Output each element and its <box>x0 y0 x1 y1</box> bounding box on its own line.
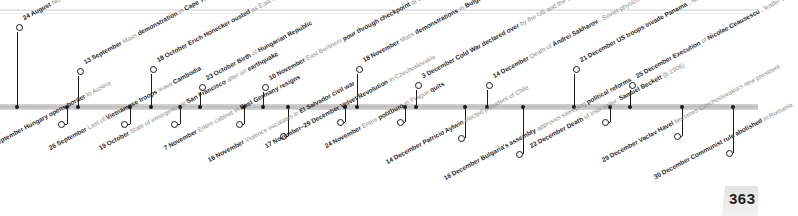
event-text: Non- <box>50 0 67 6</box>
top-rule-secondary <box>0 13 758 14</box>
event-text: Hungarian Republic <box>257 19 314 54</box>
event-text: as East German leader <box>250 0 311 13</box>
connector-line <box>405 108 406 122</box>
event-date: 30 December <box>652 154 692 180</box>
event-marker-ring <box>458 135 465 142</box>
connector-line <box>130 108 131 124</box>
event-marker-ring <box>415 82 422 89</box>
event-marker-ring <box>516 151 523 158</box>
event-text: Andrei Sakharov <box>551 17 601 48</box>
event-label: 14 December Patricio Aylwin elected pres… <box>384 83 530 165</box>
event-label: 16 December Bulgaria's assembly approves… <box>442 76 632 182</box>
event-date: 26 September <box>47 124 89 151</box>
event-marker-ring <box>150 66 157 73</box>
event-marker-ring <box>726 150 733 157</box>
event-text: East Berliners <box>304 36 344 62</box>
connector-line <box>574 74 575 106</box>
page-number: 363 <box>729 190 756 207</box>
event-text: Cambodia <box>172 64 203 85</box>
event-text: Nicolae Ceausescu <box>706 7 762 41</box>
event-label: 16 November Violence escalates in El Sal… <box>206 79 356 163</box>
event-text: Last of <box>86 115 108 131</box>
event-date: 16 November <box>206 137 246 163</box>
connector-line <box>67 108 68 124</box>
event-date: 24 November <box>323 123 363 149</box>
event-marker-ring <box>356 66 363 73</box>
event-marker-ring <box>121 121 128 128</box>
event-text: Vaclav Havel <box>637 118 676 143</box>
connector-line <box>610 108 611 122</box>
event-marker-ring <box>171 121 178 128</box>
event-label: 30 December Communist rule abolished in … <box>652 101 793 181</box>
event-date: 13 September <box>82 38 124 65</box>
event-text: Cold War declared over <box>454 21 522 61</box>
event-marker-ring <box>16 24 23 31</box>
top-rule <box>0 9 758 11</box>
event-marker-ring <box>236 121 243 128</box>
event-text: in Romania <box>762 101 794 122</box>
connector-line <box>180 108 181 124</box>
event-text: to Austria <box>85 79 112 98</box>
event-text: San Francisco <box>185 77 228 105</box>
event-date: 11 September <box>0 125 26 152</box>
event-text: quits <box>429 80 446 93</box>
event-marker-ring <box>602 119 609 126</box>
connector-line <box>345 108 346 122</box>
event-date: 14 December <box>491 53 531 79</box>
event-date: 18 November <box>361 37 401 63</box>
event-date: 16 December <box>442 155 482 181</box>
event-date: 21 December <box>578 37 618 63</box>
event-text: ; Noriega evades capture <box>686 0 752 6</box>
event-text: Hungary opens border <box>23 92 88 131</box>
event-date: 29 December <box>600 137 640 163</box>
event-text: , leader of Romania (b.1918) <box>759 0 798 13</box>
event-marker-ring <box>337 119 344 126</box>
event-date: 18 October <box>155 40 189 63</box>
connector-line <box>17 32 18 106</box>
event-date: 14 December <box>384 139 424 165</box>
event-date: 7 November <box>162 127 199 151</box>
event-text: Bulgaria <box>463 0 490 9</box>
connector-line <box>244 108 245 124</box>
event-date: 19 October <box>97 128 131 151</box>
event-marker-ring <box>486 82 493 89</box>
event-text: Execution <box>671 38 703 59</box>
event-text: Death of <box>528 41 554 59</box>
event-marker-ring <box>573 66 580 73</box>
event-marker-ring <box>77 68 84 75</box>
event-marker-ring <box>674 133 681 140</box>
event-marker-ring <box>397 119 404 126</box>
event-marker-ring <box>58 121 65 128</box>
